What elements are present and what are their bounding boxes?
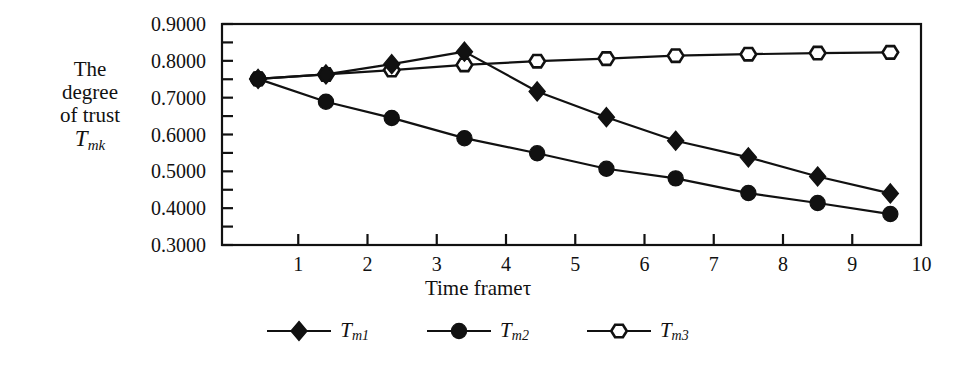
legend-label: Tm2 [500,318,529,344]
x-axis-tick-label: 9 [847,254,857,274]
x-axis-tick-label: 8 [778,254,788,274]
legend-label-subscript: m3 [672,328,689,343]
x-axis-tick-label: 5 [570,254,580,274]
x-axis-tick-label: 3 [432,254,442,274]
x-axis-tick-labels: 12345678910 [0,0,956,369]
legend-label-subscript: m2 [512,328,529,343]
legend-marker-open-hexagon-icon [607,319,631,343]
x-axis-tick-label: 6 [640,254,650,274]
legend-label-base: T [660,318,672,342]
chart-legend: Tm1Tm2Tm3 [0,318,956,344]
x-axis-tick-label: 10 [912,254,932,274]
data-point-open-hexagon [611,325,627,337]
legend-marker-filled-circle-icon [447,319,471,343]
x-axis-label: Time frameτ [0,276,956,301]
trust-degree-line-chart: The degree of trust Tmk 0.30000.40000.50… [0,0,956,369]
legend-marker-filled-diamond-icon [287,319,311,343]
data-point-filled-diamond [291,322,307,341]
legend-item-3[interactable]: Tm3 [587,318,689,344]
data-point-filled-circle [451,323,466,338]
legend-label-subscript: m1 [352,328,369,343]
legend-marker-line [267,324,331,338]
x-axis-tick-label: 4 [501,254,511,274]
legend-item-1[interactable]: Tm1 [267,318,369,344]
x-axis-tick-label: 1 [293,254,303,274]
legend-item-2[interactable]: Tm2 [427,318,529,344]
legend-marker-line [427,324,491,338]
x-axis-tick-label: 2 [363,254,373,274]
legend-label: Tm1 [340,318,369,344]
legend-label-base: T [340,318,352,342]
x-axis-tick-label: 7 [709,254,719,274]
legend-label: Tm3 [660,318,689,344]
legend-marker-line [587,324,651,338]
legend-label-base: T [500,318,512,342]
